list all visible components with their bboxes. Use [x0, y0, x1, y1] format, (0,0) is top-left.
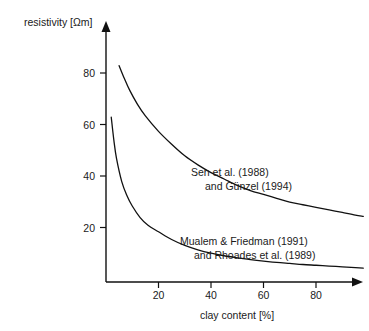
- y-tick-label-20: 20: [83, 222, 95, 234]
- y-tick-label-80: 80: [83, 67, 95, 79]
- x-axis-arrowhead: [352, 278, 363, 287]
- annotation-mualem: Mualem & Friedman (1991) and Rhoades et …: [180, 235, 315, 261]
- x-tick-label-20: 20: [153, 289, 165, 301]
- x-axis: 20 40 60 80: [106, 278, 363, 302]
- x-tick-label-80: 80: [310, 289, 322, 301]
- annotation-mualem-line-2: and Rhoades et al. (1989): [194, 249, 315, 261]
- x-axis-title: clay content [%]: [200, 309, 274, 321]
- resistivity-vs-clay-content-chart: 80 60 40 20 20 40 60 80 resistivity [Ωm]…: [0, 0, 369, 331]
- annotation-mualem-line-1: Mualem & Friedman (1991): [180, 235, 308, 247]
- y-tick-label-60: 60: [83, 119, 95, 131]
- x-tick-label-40: 40: [205, 289, 217, 301]
- annotation-sen: Sen et al. (1988) and Günzel (1994): [191, 166, 292, 192]
- y-axis-arrowhead: [102, 21, 111, 32]
- curve-sen-gunzel: [119, 66, 363, 217]
- annotation-sen-line-1: Sen et al. (1988): [191, 166, 269, 178]
- chart-canvas: 80 60 40 20 20 40 60 80 resistivity [Ωm]…: [0, 0, 369, 331]
- annotation-sen-line-2: and Günzel (1994): [205, 180, 292, 192]
- y-tick-label-40: 40: [83, 170, 95, 182]
- x-tick-label-60: 60: [258, 289, 270, 301]
- y-axis-title: resistivity [Ωm]: [24, 16, 93, 28]
- y-axis: 80 60 40 20: [83, 21, 110, 282]
